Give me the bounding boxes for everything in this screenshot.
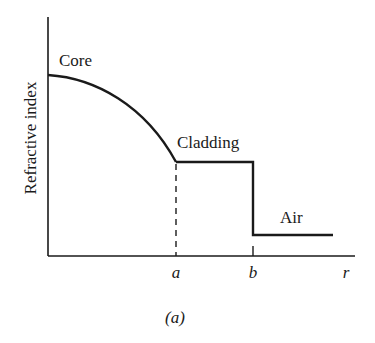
cladding-and-air-profile xyxy=(176,162,333,235)
core-graded-curve xyxy=(48,75,176,162)
air-label: Air xyxy=(280,208,303,227)
tick-label-b: b xyxy=(249,263,258,282)
x-axis-label: r xyxy=(343,263,350,282)
y-axis-label: Refractive index xyxy=(21,81,40,194)
tick-label-a: a xyxy=(172,263,181,282)
figure-caption: (a) xyxy=(165,308,185,327)
core-label: Core xyxy=(59,51,92,70)
cladding-label: Cladding xyxy=(177,133,240,152)
refractive-index-profile-diagram: Refractive index Core Cladding Air a b r… xyxy=(0,0,375,343)
